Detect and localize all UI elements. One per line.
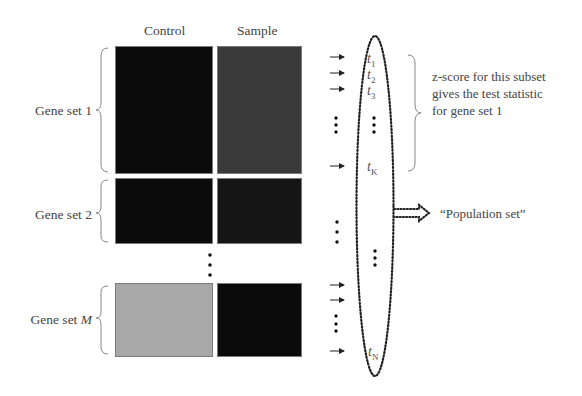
ellipsis-gene-sets [208, 253, 212, 277]
subset-note: z-score for this subset gives the test s… [432, 68, 546, 119]
brace-gene-set-2 [96, 180, 108, 242]
subset-note-line-2: gives the test statistic [432, 85, 546, 102]
population-arrow [394, 205, 429, 221]
subset-note-line-3: for gene set 1 [432, 102, 546, 119]
brace-gene-set-1 [96, 48, 108, 172]
stat-tk: tK [367, 160, 377, 177]
arrows [330, 57, 344, 351]
stat-t3: t3 [367, 84, 375, 101]
population-set-label: “Population set” [440, 206, 526, 222]
subset-note-line-1: z-score for this subset [432, 68, 546, 85]
brace-subset [408, 55, 421, 171]
brace-gene-set-m [96, 286, 108, 354]
diagram-graphics [0, 0, 582, 396]
stat-tn: tN [368, 345, 378, 362]
ellipse-dots [372, 116, 376, 266]
